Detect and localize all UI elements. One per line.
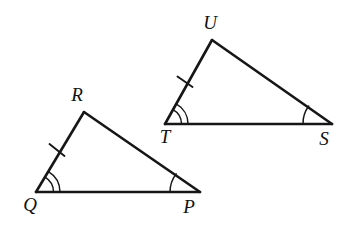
- triangle-STU: T S U: [160, 12, 332, 149]
- edge-US: [212, 40, 332, 124]
- vertex-label-T: T: [160, 126, 172, 147]
- angle-mark-P: [170, 174, 176, 192]
- geometry-diagram: Q P R T S U: [0, 0, 349, 240]
- edge-TU: [165, 40, 212, 124]
- angle-arc-T-inner: [173, 110, 181, 124]
- vertex-label-S: S: [319, 128, 329, 149]
- triangle-PQR: Q P R: [23, 84, 200, 217]
- vertex-label-P: P: [182, 196, 195, 217]
- angle-arc-Q-inner: [45, 177, 53, 192]
- vertex-label-R: R: [70, 84, 83, 105]
- angle-arc-P: [170, 174, 176, 192]
- geometry-canvas: Q P R T S U: [0, 0, 349, 240]
- vertex-label-U: U: [203, 12, 218, 33]
- vertex-label-Q: Q: [23, 194, 37, 215]
